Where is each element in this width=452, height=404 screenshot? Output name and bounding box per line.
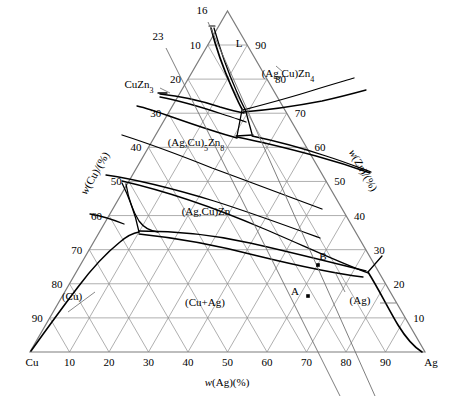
cu-beta-boundary xyxy=(122,183,139,232)
construction-label-16: 16 xyxy=(197,4,209,16)
axis-title-left-text: w(Cu)/(%) xyxy=(78,149,113,197)
axis-title-bottom: w(Ag)(%) xyxy=(205,376,250,389)
marker-label-A: A xyxy=(291,285,299,297)
left-tick-label: 70 xyxy=(71,244,83,256)
bottom-tick-label: 70 xyxy=(301,356,313,368)
corner-label-cu: Cu xyxy=(26,356,39,368)
bottom-tick-label: 10 xyxy=(64,356,76,368)
axis-title-bottom-text: w(Ag)(%) xyxy=(205,376,250,389)
phase-label-cu-plus-ag: (Cu+Ag) xyxy=(185,296,225,309)
ternary-diagram-svg: AB 1020304050607080901020304050607080909… xyxy=(0,0,452,404)
axis-title-left: w(Cu)/(%) xyxy=(78,149,113,197)
phase-label-agcu-zn4: (Ag,Cu)Zn4 xyxy=(262,67,315,84)
left-tick-label: 90 xyxy=(32,312,44,324)
corner-label-ag: Ag xyxy=(424,356,438,368)
phase-region-labels: LCuZn3(Ag,Cu)Zn4(Ag,Cu)5Zn8(Ag,Cu)Zn(Cu)… xyxy=(62,37,371,309)
cuzn3-boundary-b xyxy=(160,97,246,122)
right-tick-label: 50 xyxy=(334,175,346,187)
phase-label-liquid: L xyxy=(236,37,243,49)
bottom-tick-label: 90 xyxy=(380,356,392,368)
bottom-tick-label: 30 xyxy=(143,356,155,368)
phase-label-agcu5-zn8: (Ag,Cu)5Zn8 xyxy=(168,136,225,153)
phase-label-agcu-zn: (Ag,Cu)Zn xyxy=(182,205,231,218)
right-tick-label: 30 xyxy=(374,244,386,256)
agcuzn-upper-boundary xyxy=(139,231,366,271)
bottom-tick-label: 50 xyxy=(222,356,234,368)
right-tick-label: 90 xyxy=(255,39,267,51)
grid-line-right-parallel xyxy=(50,318,70,352)
left-tick-label: 60 xyxy=(91,210,103,222)
construction-label-23: 23 xyxy=(153,30,165,42)
right-tick-label: 40 xyxy=(354,210,366,222)
marker-dot-A xyxy=(306,294,310,298)
axis-title-right: w(Zn)/(%) xyxy=(346,147,381,194)
ag-triple-spur xyxy=(368,256,382,272)
grid-line-left-parallel xyxy=(228,181,327,352)
phase-label-ag-solid: (Ag) xyxy=(350,294,371,307)
mid-tieline-upper xyxy=(122,181,368,273)
right-tick-label: 10 xyxy=(413,312,425,324)
central-triangle-right xyxy=(246,112,252,134)
bottom-tick-label: 40 xyxy=(183,356,195,368)
left-tick-label: 40 xyxy=(131,141,143,153)
left-tick-label: 30 xyxy=(150,107,162,119)
axis-title-right-text: w(Zn)/(%) xyxy=(346,147,381,194)
central-triangle-base xyxy=(236,135,253,136)
ternary-diagram-figure: AB 1020304050607080901020304050607080909… xyxy=(0,0,452,404)
left-tick-label: 20 xyxy=(170,73,182,85)
grid-line-right-parallel xyxy=(89,250,148,352)
right-tick-label: 60 xyxy=(315,141,327,153)
left-tick-label: 80 xyxy=(52,278,64,290)
phase-label-cuzn3: CuZn3 xyxy=(124,78,153,95)
phase-label-cu-solid: (Cu) xyxy=(62,290,83,303)
cuzn3-label-leader xyxy=(160,88,170,93)
left-tick-label: 50 xyxy=(111,175,123,187)
marker-label-B: B xyxy=(319,250,326,262)
grid-line-left-parallel xyxy=(149,113,287,352)
grid-line-left-parallel xyxy=(386,318,406,352)
right-tick-label: 20 xyxy=(394,278,406,290)
bottom-tick-label: 20 xyxy=(104,356,116,368)
left-tick-label: 10 xyxy=(190,39,202,51)
marker-dot-B xyxy=(316,263,320,267)
bottom-tick-label: 80 xyxy=(341,356,353,368)
ag-label-leader-2 xyxy=(335,272,345,292)
bottom-tick-label: 60 xyxy=(262,356,274,368)
right-tick-label: 70 xyxy=(295,107,307,119)
